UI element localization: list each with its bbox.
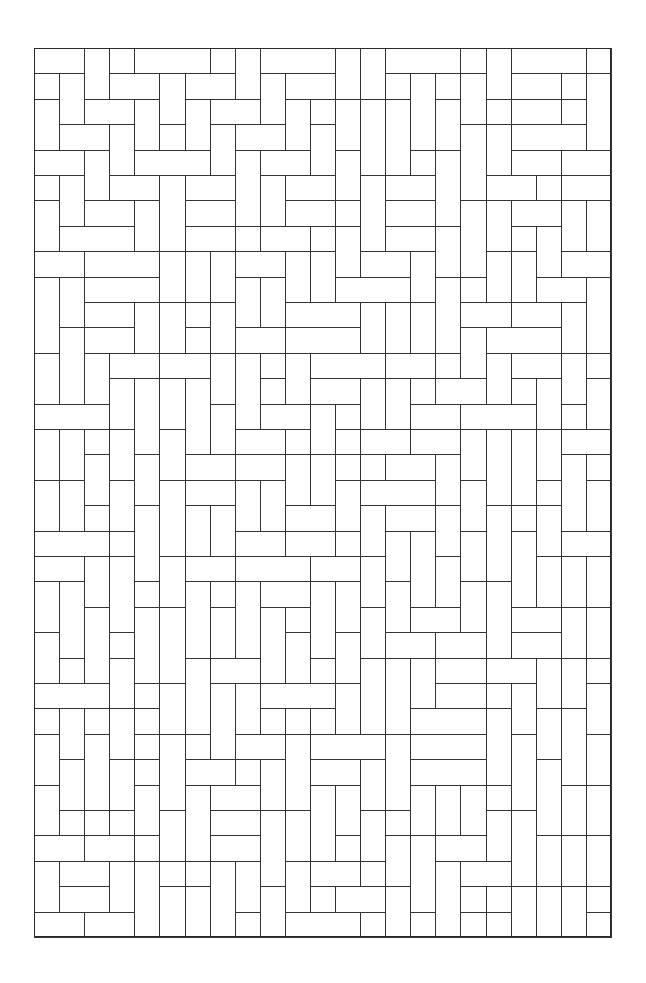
tile	[460, 429, 486, 481]
tile	[185, 175, 236, 201]
tile	[486, 785, 512, 811]
tile	[59, 708, 85, 760]
tile	[410, 607, 461, 633]
tile	[385, 175, 436, 201]
tile	[511, 251, 537, 303]
tile	[84, 302, 135, 328]
tile	[385, 810, 411, 836]
tile	[561, 175, 612, 201]
tile	[536, 226, 562, 278]
tile	[586, 48, 612, 74]
tile	[210, 810, 261, 836]
tile	[410, 429, 461, 455]
tile	[561, 886, 587, 938]
tile	[84, 708, 110, 734]
tile	[109, 861, 135, 913]
tile	[486, 124, 512, 176]
tile	[34, 632, 60, 684]
tile	[84, 150, 110, 202]
tile	[586, 886, 612, 912]
tile	[235, 480, 261, 532]
tile	[285, 429, 311, 455]
tile	[59, 429, 85, 481]
tile	[335, 531, 361, 557]
tile	[260, 480, 286, 532]
tile	[185, 734, 211, 760]
tile	[335, 277, 411, 303]
tile	[335, 683, 361, 735]
tile	[235, 150, 261, 227]
tile	[410, 378, 436, 404]
tile	[285, 251, 311, 303]
tile	[59, 226, 135, 252]
tile	[84, 912, 135, 938]
tile	[285, 175, 336, 201]
tile	[59, 810, 85, 836]
tile	[335, 404, 361, 430]
tile	[260, 175, 286, 227]
tile	[435, 785, 461, 837]
tile	[260, 150, 311, 176]
tile	[360, 454, 386, 480]
tile	[335, 480, 361, 532]
tile	[410, 531, 436, 608]
tile	[511, 302, 562, 328]
tile	[260, 683, 336, 709]
tile	[410, 785, 436, 837]
tile	[310, 658, 336, 684]
tile	[235, 581, 261, 658]
tile	[410, 302, 436, 354]
tile	[460, 200, 486, 277]
tile	[159, 175, 185, 252]
tile	[561, 99, 587, 125]
tile	[435, 226, 461, 278]
tile	[310, 251, 336, 303]
tile	[260, 48, 336, 74]
tile	[561, 708, 587, 785]
tile	[34, 785, 60, 837]
tile	[59, 480, 85, 532]
tile	[435, 556, 461, 608]
tile	[59, 277, 85, 329]
tile	[435, 277, 461, 354]
tile	[84, 200, 135, 226]
tile	[511, 150, 562, 176]
tile	[586, 378, 612, 430]
tile	[310, 99, 336, 125]
tile	[561, 302, 587, 354]
tile	[586, 556, 612, 608]
tile	[285, 454, 311, 506]
tile	[410, 708, 486, 734]
tile	[34, 404, 110, 430]
tile	[536, 480, 562, 506]
tile	[360, 429, 411, 455]
tile	[310, 124, 336, 176]
tile	[34, 200, 60, 252]
tile	[385, 48, 461, 74]
tile	[410, 835, 436, 912]
tile	[210, 607, 236, 659]
tile	[59, 861, 110, 887]
tile	[210, 505, 236, 557]
tile	[511, 531, 537, 608]
tile	[134, 734, 160, 760]
tile	[410, 73, 436, 150]
tile	[134, 505, 160, 582]
tile	[159, 251, 185, 303]
tile	[561, 658, 587, 710]
tile	[34, 150, 85, 176]
tile	[586, 353, 612, 379]
tile	[511, 378, 537, 404]
tile	[235, 556, 311, 582]
tile	[310, 454, 336, 506]
tile	[210, 48, 236, 74]
tile	[285, 99, 311, 151]
tile	[360, 861, 386, 887]
tile	[210, 658, 261, 684]
tile	[109, 632, 135, 658]
tile	[260, 759, 286, 811]
tile	[561, 454, 587, 531]
tile	[410, 658, 436, 710]
tile	[561, 556, 587, 608]
tile	[134, 581, 160, 607]
